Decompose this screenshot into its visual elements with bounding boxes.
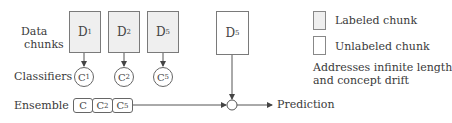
- classifier-subscript: 2: [126, 73, 130, 81]
- legend-unlabeled-text: Unlabeled chunk: [335, 40, 430, 53]
- ensemble-subscript: 5: [124, 102, 128, 110]
- row-label-chunks: chunks: [24, 38, 64, 51]
- ensemble-label: C: [96, 100, 104, 111]
- classifier-c1: C1: [74, 67, 94, 87]
- classifier-subscript: 5: [165, 73, 169, 81]
- row-label-ensemble: Ensemble: [14, 99, 69, 112]
- data-chunk-d2: D2: [108, 11, 140, 53]
- ensemble-member-c: C: [73, 98, 93, 113]
- legend-labeled-text: Labeled chunk: [335, 14, 417, 27]
- chunk-subscript: 1: [88, 28, 92, 36]
- row-label-classifiers: Classifiers: [14, 70, 72, 83]
- chunk-label: D: [117, 25, 127, 39]
- classifier-subscript: 1: [86, 73, 90, 81]
- chunk-subscript: 2: [127, 28, 131, 36]
- chunk-subscript: 5: [235, 29, 239, 37]
- ensemble-member-c2: C2: [92, 98, 113, 113]
- chunk-label: D: [156, 25, 166, 39]
- legend-labeled-swatch: [313, 11, 326, 30]
- chunk-label: D: [225, 26, 235, 40]
- classifier-c2: C2: [114, 67, 134, 87]
- ensemble-label: C: [79, 100, 87, 111]
- ensemble-member-c5: C5: [112, 98, 133, 113]
- classifier-c5: C5: [153, 67, 173, 87]
- prediction-label: Prediction: [277, 98, 335, 111]
- legend-note-line1: Addresses infinite length: [313, 61, 452, 74]
- data-chunk-d1: D1: [69, 11, 101, 53]
- unlabeled-chunk-d5: D5: [216, 11, 249, 55]
- row-label-data: Data: [21, 25, 47, 38]
- ensemble-subscript: 2: [104, 102, 108, 110]
- ensemble-label: C: [116, 100, 124, 111]
- classifier-label: C: [157, 72, 165, 83]
- chunk-label: D: [78, 25, 88, 39]
- legend-unlabeled-swatch: [313, 36, 326, 55]
- legend-note-line2: and concept drift: [313, 74, 409, 87]
- classifier-label: C: [78, 72, 86, 83]
- classifier-label: C: [118, 72, 126, 83]
- chunk-subscript: 5: [166, 28, 170, 36]
- data-chunk-d5: D5: [147, 11, 179, 53]
